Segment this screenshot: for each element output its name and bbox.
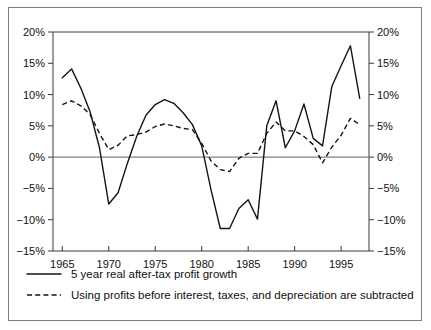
- legend-label-dashed: Using profits before interest, taxes, an…: [71, 289, 414, 301]
- y-tick-label-left: 0%: [29, 151, 45, 163]
- chart-legend: 5 year real after-tax profit growth Usin…: [27, 268, 414, 301]
- x-tick-label: 1995: [329, 258, 353, 270]
- y-tick-label-left: −5%: [23, 182, 46, 194]
- legend-label-solid: 5 year real after-tax profit growth: [71, 268, 237, 280]
- y-tick-label-left: 20%: [23, 26, 45, 38]
- y-axis-labels-left: 20%15%10%5%0%−5%−10%−15%: [17, 26, 46, 257]
- figure-container: 20%15%10%5%0%−5%−10%−15% 20%15%10%5%0%−5…: [0, 0, 431, 330]
- x-tick-label: 1990: [282, 258, 306, 270]
- y-tick-label-left: 5%: [29, 120, 45, 132]
- series-line-dashed: [62, 101, 359, 172]
- y-tick-marks: [48, 32, 374, 251]
- axes-group: [53, 32, 369, 251]
- series-line-solid: [62, 46, 359, 229]
- y-tick-label-right: 0%: [377, 151, 393, 163]
- data-series-group: [62, 46, 359, 229]
- x-tick-label: 1985: [236, 258, 260, 270]
- y-tick-label-left: 15%: [23, 57, 45, 69]
- y-tick-label-right: 15%: [377, 57, 399, 69]
- y-tick-label-right: 5%: [377, 120, 393, 132]
- y-tick-label-right: 20%: [377, 26, 399, 38]
- x-tick-marks: [62, 246, 341, 251]
- y-axis-labels-right: 20%15%10%5%0%−5%−10%−15%: [377, 26, 406, 257]
- chart-frame-border: 20%15%10%5%0%−5%−10%−15% 20%15%10%5%0%−5…: [8, 7, 422, 321]
- y-tick-label-left: 10%: [23, 89, 45, 101]
- y-tick-label-right: −5%: [377, 182, 400, 194]
- y-tick-label-right: −15%: [377, 245, 406, 257]
- y-tick-label-left: −15%: [17, 245, 46, 257]
- profit-growth-line-chart: 20%15%10%5%0%−5%−10%−15% 20%15%10%5%0%−5…: [9, 8, 421, 320]
- y-tick-label-right: −10%: [377, 214, 406, 226]
- y-tick-label-right: 10%: [377, 89, 399, 101]
- y-tick-label-left: −10%: [17, 214, 46, 226]
